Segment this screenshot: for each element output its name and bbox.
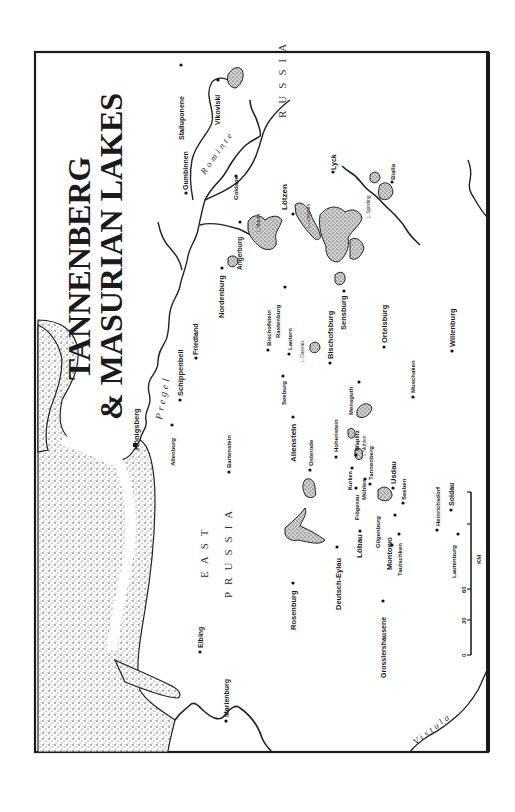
svg-text:Grosslershausene: Grosslershausene — [380, 617, 387, 678]
svg-text:Vistula: Vistula — [411, 710, 453, 746]
lake-dassau — [310, 342, 320, 353]
svg-text:Waplitz: Waplitz — [354, 430, 360, 451]
svg-text:Schippenbeil: Schippenbeil — [176, 349, 185, 396]
svg-text:Stalluponene: Stalluponene — [178, 96, 186, 140]
svg-text:Lötzen: Lötzen — [280, 184, 289, 210]
svg-text:Kurken: Kurken — [347, 470, 353, 490]
lake-vikoviski — [227, 68, 243, 88]
lake-mensguth — [357, 404, 372, 418]
town-ortelsburg: Ortelsburg — [380, 304, 389, 348]
lake-osterode — [303, 479, 316, 498]
svg-text:TANNENBERG: TANNENBERG — [61, 156, 97, 380]
svg-text:Heinrichsdorf: Heinrichsdorf — [435, 486, 441, 526]
town-rosenburg: Rosenburg — [289, 581, 298, 630]
svg-text:Tautschken: Tautschken — [397, 543, 403, 576]
map-title-line2: & MASURIAN LAKES — [93, 93, 129, 420]
svg-text:Frögenau: Frögenau — [354, 495, 360, 520]
svg-text:Seeben: Seeben — [401, 478, 407, 500]
label-lake-mauer: L.Mauer — [255, 213, 261, 232]
town-sensburg: Sensburg — [339, 289, 348, 330]
svg-text:Allenstein: Allenstein — [289, 424, 298, 462]
scale-unit: KM — [476, 555, 482, 564]
svg-text:Sensburg: Sensburg — [339, 295, 348, 330]
lake-sensburg — [335, 272, 345, 285]
town-nordenburg: Nordenburg — [217, 266, 226, 318]
svg-text:Osterode: Osterode — [308, 439, 314, 466]
town-osterode: Osterode — [308, 439, 314, 472]
river-south — [468, 160, 488, 218]
lake-spirding-south — [350, 238, 364, 259]
svg-text:Tannenberg: Tannenberg — [368, 446, 374, 480]
svg-text:Friedland: Friedland — [192, 323, 199, 355]
label-pregel: Pregel — [153, 375, 172, 422]
svg-text:Lautern: Lautern — [287, 328, 293, 350]
svg-text:Allenburg: Allenburg — [170, 438, 176, 466]
svg-text:Bialla: Bialla — [390, 163, 396, 180]
svg-text:Bischofsburg: Bischofsburg — [326, 310, 335, 359]
scale-bar: 0 30 60 KM — [461, 492, 482, 657]
town-lautern: Lautern — [287, 328, 293, 356]
town-bischofsburg: Bischofsburg — [326, 310, 335, 364]
svg-text:L.Mühlen: L.Mühlen — [361, 435, 367, 456]
svg-text:Marienburg: Marienburg — [223, 679, 231, 717]
town-allenburg: Allenburg — [170, 423, 176, 466]
svg-text:Gilgenburg: Gilgenburg — [375, 516, 381, 548]
svg-text:PRUSSIA: PRUSSIA — [222, 504, 234, 598]
town-tautschken: Tautschken — [397, 532, 403, 576]
map-canvas: TANNENBERG & MASURIAN LAKES EAST PRUSSIA… — [0, 0, 515, 812]
svg-text:Deutsch-Eylau: Deutsch-Eylau — [334, 557, 343, 610]
svg-text:Pregel: Pregel — [153, 375, 172, 422]
town-tannenberg: Tannenberg — [368, 446, 374, 486]
town-goldape: Goldape — [233, 174, 239, 200]
river-branch-west — [158, 222, 182, 270]
town-kurken: Kurken — [347, 466, 354, 490]
town-elbing: Elbing — [197, 627, 205, 654]
town-lautenburg: Lautenburg — [451, 532, 460, 578]
svg-text:L.Dassau: L.Dassau — [299, 341, 305, 362]
town-vikoviski: Vikoviski — [214, 78, 221, 125]
svg-text:Willenburg: Willenburg — [448, 308, 457, 347]
pregel-river — [140, 200, 205, 440]
town-hohenstein: Hohenstein — [333, 419, 339, 459]
town-grosslershausene: Grosslershausene — [380, 599, 387, 678]
lake-geserich — [285, 508, 325, 543]
border-south-east — [342, 166, 420, 245]
svg-text:Mensguth: Mensguth — [348, 386, 354, 415]
label-russia: RUSSIA — [276, 37, 288, 118]
svg-text:L.Mauer: L.Mauer — [255, 213, 261, 232]
town-usdau: Usdau — [389, 461, 398, 490]
svg-text:Vikoviski: Vikoviski — [214, 95, 221, 125]
town-deutsch-eylau: Deutsch-Eylau — [334, 545, 343, 610]
town-bischofstein: Bischofstein — [266, 310, 272, 352]
svg-text:Bischofstein: Bischofstein — [266, 310, 272, 346]
svg-text:EAST: EAST — [198, 523, 210, 579]
town-montowo: Montowo — [385, 537, 394, 570]
town-bialla: Bialla — [390, 163, 396, 183]
svg-text:Mühlen: Mühlen — [361, 479, 367, 500]
town-lotzen: Lötzen — [280, 184, 295, 215]
town-seeben: Seeben — [401, 478, 407, 504]
town-konigsberg: Königsberg — [132, 408, 141, 450]
lake-gilgenburg — [378, 487, 392, 501]
svg-text:RUSSIA: RUSSIA — [276, 37, 288, 118]
town-stalluponene: Stalluponene — [178, 63, 186, 140]
svg-text:Elbing: Elbing — [197, 627, 205, 648]
scale-tick-30: 30 — [461, 617, 467, 624]
town-allenstein: Allenstein — [289, 415, 298, 462]
svg-text:Bartenstein: Bartenstein — [226, 435, 232, 468]
svg-text:Rastenburg: Rastenburg — [275, 304, 281, 338]
town-heinrichsdorf: Heinrichsdorf — [435, 486, 441, 532]
svg-text:Löbau: Löbau — [355, 534, 364, 558]
town-seeburg: Seeburg — [281, 374, 287, 405]
scale-tick-0: 0 — [461, 653, 467, 657]
town-friedland: Friedland — [192, 323, 199, 359]
svg-text:L.Spirding: L.Spirding — [365, 195, 371, 218]
scale-tick-60: 60 — [461, 586, 467, 593]
lake-mauer — [248, 216, 282, 250]
svg-text:L.Lowentin: L.Lowentin — [305, 204, 311, 228]
label-prussia: PRUSSIA — [222, 504, 234, 598]
town-willenburg: Willenburg — [448, 308, 457, 353]
town-muhlen: Mühlen — [361, 477, 367, 500]
label-east: EAST — [198, 523, 210, 579]
svg-text:Königsberg: Königsberg — [132, 408, 141, 450]
